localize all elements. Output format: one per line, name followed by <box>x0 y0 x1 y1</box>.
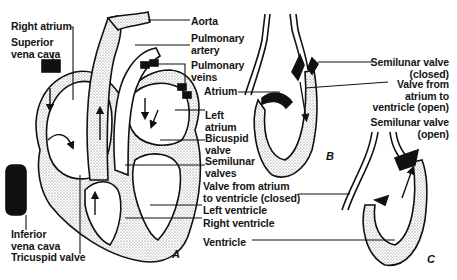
label-right-atrium: Right atrium <box>11 21 72 33</box>
label-left-atrium: Left atrium <box>205 110 237 133</box>
label-superior-vena-cava: Superior vena cava <box>11 37 60 60</box>
label-right-ventricle: Right ventricle <box>203 218 274 230</box>
label-semilunar-valve-closed: Semilunar valve (closed) <box>371 57 449 80</box>
heart-c <box>342 132 427 265</box>
label-left-ventricle: Left ventricle <box>203 205 267 217</box>
label-valve-atrium-ventricle-closed: Valve from atrium to ventricle (closed) <box>203 181 300 204</box>
label-semilunar-valve-open: Semilunar valve (open) <box>371 117 449 140</box>
label-pulmonary-veins: Pulmonary veins <box>191 60 244 83</box>
label-atrium: Atrium <box>204 86 237 98</box>
label-inferior-vena-cava: Inferior vena cava <box>11 229 60 252</box>
heart-b <box>245 14 318 177</box>
label-tricuspid-valve: Tricuspid valve <box>11 252 85 264</box>
label-valve-atrium-ventricle-open: Valve from atrium to ventricle (open) <box>372 79 449 114</box>
label-aorta: Aorta <box>191 16 218 28</box>
panel-label-b: B <box>326 150 334 162</box>
label-semilunar-valves: Semilunar valves <box>205 156 255 179</box>
label-ventricle: Ventricle <box>203 237 246 249</box>
label-bicuspid-valve: Bicuspid valve <box>205 133 249 156</box>
panel-label-c: C <box>427 253 435 265</box>
panel-label-a: A <box>172 248 180 260</box>
label-pulmonary-artery: Pulmonary artery <box>191 33 244 56</box>
